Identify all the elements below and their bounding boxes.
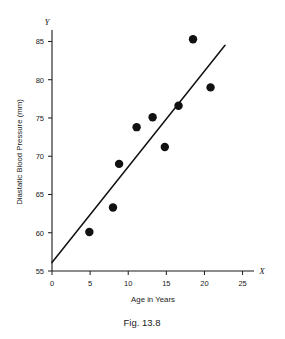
data-point: [189, 35, 197, 43]
data-points-group: [85, 35, 215, 236]
y-tick-label: 75: [36, 114, 44, 123]
scatter-plot: 55606570758085 0510152025 Y X Diastatic …: [0, 0, 285, 339]
y-axis-title: Diastatic Blood Pressure (mm): [15, 99, 24, 205]
data-point: [85, 228, 93, 236]
data-point: [174, 102, 182, 110]
y-tick-label: 60: [36, 229, 44, 238]
y-tick-label: 65: [36, 190, 44, 199]
x-tick-label: 25: [238, 279, 246, 288]
y-tick-label: 70: [36, 152, 44, 161]
y-tick-label: 85: [36, 37, 44, 46]
y-tick-label: 55: [36, 267, 44, 276]
y-axis-name-label: Y: [44, 17, 50, 27]
data-point: [109, 203, 117, 211]
y-tick-label: 80: [36, 76, 44, 85]
x-axis-title: Age in Years: [131, 295, 175, 304]
x-axis-ticks: 0510152025: [50, 271, 247, 288]
data-point: [115, 160, 123, 168]
x-tick-label: 20: [200, 279, 208, 288]
x-tick-label: 15: [162, 279, 170, 288]
plot-axes: [52, 30, 254, 271]
regression-line: [52, 45, 225, 262]
figure-container: 55606570758085 0510152025 Y X Diastatic …: [0, 0, 285, 339]
data-point: [148, 113, 156, 121]
x-tick-label: 5: [88, 279, 92, 288]
data-point: [161, 143, 169, 151]
figure-caption: Fig. 13.8: [124, 317, 161, 328]
y-axis-ticks: 55606570758085: [36, 37, 52, 276]
x-tick-label: 10: [124, 279, 132, 288]
data-point: [206, 83, 214, 91]
x-axis-name-label: X: [258, 266, 265, 276]
data-point: [132, 123, 140, 131]
x-tick-label: 0: [50, 279, 54, 288]
